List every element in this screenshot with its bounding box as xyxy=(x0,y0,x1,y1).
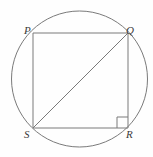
right-angle-marker-icon xyxy=(117,117,128,128)
diagonal-sq xyxy=(33,33,128,128)
vertex-label-s: S xyxy=(24,129,30,140)
geometry-figure: P Q R S xyxy=(0,0,153,157)
vertex-label-r: R xyxy=(126,129,133,140)
vertex-label-q: Q xyxy=(126,25,134,36)
vertex-label-p: P xyxy=(24,25,31,36)
